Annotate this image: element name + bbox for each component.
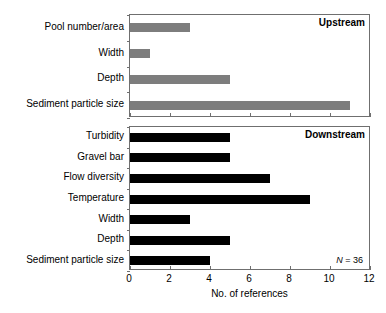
y-tick-downstream-1 <box>127 148 130 149</box>
y-tick-upstream-1 <box>127 41 130 42</box>
bar-upstream-2 <box>130 75 230 84</box>
category-label-downstream-3: Temperature <box>0 192 124 203</box>
x-tick-downstream-0 <box>130 266 131 270</box>
y-tick-downstream-6 <box>127 250 130 251</box>
y-tick-downstream-4 <box>127 209 130 210</box>
x-tick-upstream-2 <box>210 113 211 117</box>
x-tick-upstream-1 <box>170 113 171 117</box>
bar-upstream-3 <box>130 101 350 110</box>
category-label-downstream-2: Flow diversity <box>0 171 124 182</box>
panel-upstream: Upstream <box>129 14 370 117</box>
category-label-upstream-3: Sediment particle size <box>0 98 124 109</box>
bar-downstream-2 <box>130 174 270 183</box>
category-label-downstream-5: Depth <box>0 233 124 244</box>
bar-downstream-5 <box>130 236 230 245</box>
bar-downstream-1 <box>130 153 230 162</box>
category-label-downstream-0: Turbidity <box>0 130 124 141</box>
bars-layer-downstream <box>130 127 369 269</box>
category-label-downstream-1: Gravel bar <box>0 151 124 162</box>
y-tick-downstream-end <box>127 271 130 272</box>
x-tick-upstream-4 <box>290 113 291 117</box>
figure-bar-chart-references: Upstream Downstream N = 36 Pool number/a… <box>0 0 386 313</box>
x-tick-downstream-6 <box>370 266 371 270</box>
y-tick-upstream-2 <box>127 67 130 68</box>
y-tick-downstream-5 <box>127 230 130 231</box>
category-label-upstream-1: Width <box>0 47 124 58</box>
x-axis-title: No. of references <box>129 288 370 300</box>
y-tick-upstream-end <box>127 118 130 119</box>
bar-upstream-0 <box>130 23 190 32</box>
y-tick-downstream-0 <box>127 127 130 128</box>
x-tick-upstream-6 <box>370 113 371 117</box>
x-tick-downstream-4 <box>290 266 291 270</box>
y-tick-upstream-3 <box>127 92 130 93</box>
sample-size-annotation: N = 36 <box>336 255 363 266</box>
x-tick-downstream-5 <box>330 266 331 270</box>
sample-size-value: = 36 <box>343 255 363 265</box>
x-tick-upstream-5 <box>330 113 331 117</box>
bar-upstream-1 <box>130 49 150 58</box>
bar-downstream-6 <box>130 256 210 265</box>
y-tick-downstream-2 <box>127 168 130 169</box>
x-tick-label-1: 2 <box>154 273 184 285</box>
x-tick-upstream-3 <box>250 113 251 117</box>
x-tick-downstream-1 <box>170 266 171 270</box>
panel-downstream: Downstream N = 36 <box>129 126 370 270</box>
bar-downstream-3 <box>130 195 310 204</box>
x-tick-downstream-2 <box>210 266 211 270</box>
x-tick-label-4: 8 <box>274 273 304 285</box>
x-tick-downstream-3 <box>250 266 251 270</box>
x-tick-label-6: 12 <box>354 273 384 285</box>
x-tick-label-5: 10 <box>314 273 344 285</box>
category-label-upstream-2: Depth <box>0 72 124 83</box>
y-tick-downstream-3 <box>127 189 130 190</box>
x-tick-label-2: 4 <box>194 273 224 285</box>
bars-layer-upstream <box>130 15 369 116</box>
bar-downstream-0 <box>130 133 230 142</box>
y-tick-upstream-0 <box>127 15 130 16</box>
bar-downstream-4 <box>130 215 190 224</box>
x-tick-label-3: 6 <box>234 273 264 285</box>
category-label-downstream-4: Width <box>0 213 124 224</box>
category-label-upstream-0: Pool number/area <box>0 21 124 32</box>
category-label-downstream-6: Sediment particle size <box>0 254 124 265</box>
x-tick-label-0: 0 <box>114 273 144 285</box>
x-tick-upstream-0 <box>130 113 131 117</box>
